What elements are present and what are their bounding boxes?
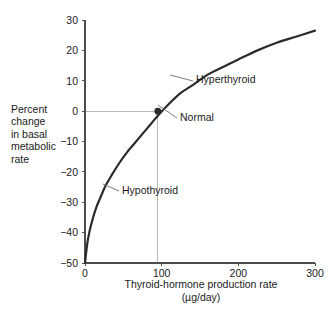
annotation-label-hyperthyroid: Hyperthyroid	[196, 73, 256, 85]
y-tick-label: −40	[60, 226, 78, 238]
x-axis-label-units: (µg/day)	[85, 291, 317, 304]
axes-group	[82, 20, 315, 266]
y-tick-label: 0	[72, 105, 78, 117]
data-marker-group	[154, 108, 161, 115]
y-axis-label-line-5: rate	[11, 153, 73, 165]
annotation-label-hypothyroid: Hypothyroid	[122, 184, 178, 196]
y-tick-label: −30	[60, 196, 78, 208]
y-axis-label: Percent change in basal metabolic rate	[11, 103, 73, 165]
chart-figure: Percent change in basal metabolic rate T…	[0, 0, 335, 310]
y-tick-label: −20	[60, 166, 78, 178]
metabolic-rate-curve	[85, 31, 315, 263]
y-tick-label: 10	[66, 75, 78, 87]
y-axis-label-line-3: in basal	[11, 128, 73, 140]
x-axis-label: Thyroid-hormone production rate (µg/day)	[85, 278, 317, 303]
y-axis-label-line-1: Percent	[11, 103, 73, 115]
normal-point-marker	[154, 108, 161, 115]
data-curve-group	[85, 31, 315, 263]
y-tick-label: 30	[66, 14, 78, 26]
annotation-label-normal: Normal	[180, 111, 214, 123]
x-axis-label-text: Thyroid-hormone production rate	[85, 278, 317, 291]
annotation-leader-hyperthyroid	[170, 75, 193, 81]
y-tick-label: −50	[60, 257, 78, 269]
y-axis-label-line-2: change	[11, 115, 73, 127]
y-axis-label-line-4: metabolic	[11, 140, 73, 152]
annotation-group: HyperthyroidNormalHypothyroid	[103, 73, 256, 196]
y-tick-label: 20	[66, 44, 78, 56]
